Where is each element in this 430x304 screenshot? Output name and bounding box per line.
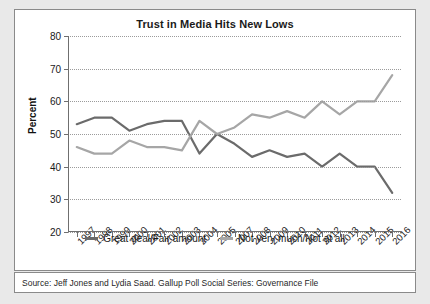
series-line	[77, 118, 392, 193]
chart-figure: Trust in Media Hits New Lows Percent 203…	[14, 9, 416, 271]
legend-label: Not very much/Not at all	[238, 233, 345, 244]
y-tick-label: 30	[1, 194, 61, 205]
y-tick-label: 50	[1, 129, 61, 140]
gridline	[68, 167, 401, 168]
y-tick-label: 80	[1, 31, 61, 42]
gridline	[68, 134, 401, 135]
y-tick-label: 70	[1, 63, 61, 74]
chart-legend: Great deal/Fair amountNot very much/Not …	[15, 233, 415, 244]
legend-label: Great deal/Fair amount	[103, 233, 206, 244]
legend-item[interactable]: Not very much/Not at all	[220, 233, 345, 244]
y-axis-line	[68, 36, 69, 232]
plot-area: 20304050607080 1997199819992000200120022…	[68, 36, 401, 232]
source-box: Source: Jeff Jones and Lydia Saad. Gallu…	[14, 272, 416, 293]
x-axis-line	[68, 231, 401, 232]
source-note: Source: Jeff Jones and Lydia Saad. Gallu…	[22, 278, 318, 288]
gridline	[68, 36, 401, 37]
series-line	[77, 75, 392, 153]
gridline	[68, 69, 401, 70]
legend-swatch-icon	[85, 237, 98, 240]
plot-wrapper: 20304050607080 1997199819992000200120022…	[68, 36, 401, 232]
gridline	[68, 101, 401, 102]
legend-swatch-icon	[220, 237, 233, 240]
y-tick-label: 40	[1, 161, 61, 172]
legend-item[interactable]: Great deal/Fair amount	[85, 233, 206, 244]
y-tick-label: 60	[1, 96, 61, 107]
chart-title: Trust in Media Hits New Lows	[15, 18, 415, 30]
gridline	[68, 199, 401, 200]
